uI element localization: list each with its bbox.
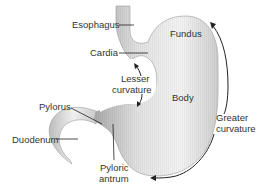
label-esophagus: Esophagus <box>72 19 120 30</box>
greater-arrow-head-up <box>210 22 216 29</box>
label-cardia: Cardia <box>90 47 118 58</box>
label-pyloric-antrum-1: Pyloric <box>100 162 129 173</box>
label-duodenum: Duodenum <box>12 134 58 145</box>
label-greater-curvature-1: Greater <box>216 112 248 123</box>
label-pylorus: Pylorus <box>39 101 71 112</box>
label-lesser-curvature-1: Lesser <box>121 73 150 84</box>
label-fundus: Fundus <box>170 28 202 39</box>
label-pyloric-antrum-2: antrum <box>99 173 129 184</box>
label-greater-curvature-2: curvature <box>216 123 256 134</box>
label-body: Body <box>172 92 194 103</box>
label-lesser-curvature-2: curvature <box>112 84 152 95</box>
